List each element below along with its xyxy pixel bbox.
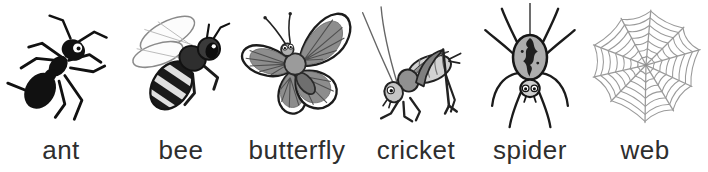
ant-art — [0, 0, 122, 134]
card-butterfly: butterfly — [238, 0, 356, 172]
flashcard-strip: ant — [0, 0, 708, 172]
label-web: web — [582, 134, 708, 166]
label-ant: ant — [0, 134, 122, 166]
card-ant: ant — [0, 0, 122, 172]
bee-icon — [127, 6, 235, 128]
cricket-art — [356, 0, 476, 134]
label-bee: bee — [124, 134, 238, 166]
spider-art — [478, 0, 582, 134]
ant-icon — [4, 7, 118, 127]
butterfly-art — [238, 0, 356, 134]
card-web: web — [582, 0, 708, 172]
web-art — [582, 0, 708, 134]
card-cricket: cricket — [356, 0, 476, 172]
card-spider: spider — [478, 0, 582, 172]
spider-icon — [480, 1, 580, 133]
card-bee: bee — [124, 0, 238, 172]
web-icon — [583, 1, 707, 133]
label-spider: spider — [478, 134, 582, 166]
label-cricket: cricket — [356, 134, 476, 166]
label-butterfly: butterfly — [238, 134, 356, 166]
cricket-icon — [359, 3, 473, 131]
bee-art — [124, 0, 238, 134]
butterfly-icon — [238, 5, 356, 129]
